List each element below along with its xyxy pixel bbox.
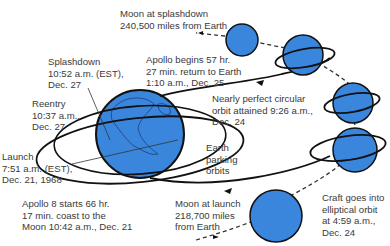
label-moon-splashdown: Moon at splashdown240,500 miles from Ear… — [120, 8, 227, 31]
moon-icon — [309, 128, 388, 172]
label-parking-orbits: Earthparkingorbits — [206, 142, 237, 177]
label-elliptical-orbit: Craft goes intoelliptical orbitat 4:59 a… — [322, 192, 384, 238]
label-coast: Apollo 8 starts 66 hr.17 min. coast to t… — [22, 198, 132, 233]
arrow-icon — [198, 31, 203, 35]
label-launch: Launch7:51 a.m. (EST),Dec. 21, 1968 — [2, 151, 72, 186]
label-return: Apollo begins 57 hr.27 min. return to Ea… — [146, 54, 241, 89]
moon-icon — [226, 24, 258, 56]
label-reentry: Reentry10:37 a.m.,Dec. 27 — [32, 98, 80, 133]
earth-icon — [96, 90, 184, 178]
label-splashdown: Splashdown10:52 a.m. (EST),Dec. 27 — [48, 56, 124, 91]
arrow-icon — [213, 235, 219, 239]
moon-icon — [274, 35, 336, 75]
label-moon-launch: Moon at launch218,700 milesfrom Earth — [175, 198, 241, 233]
arrow-icon — [224, 188, 232, 194]
arrow-icon — [256, 80, 264, 86]
label-circular-orbit: Nearly perfect circularorbit attained 9:… — [212, 93, 313, 128]
moon-icon — [250, 190, 302, 242]
moon-icon — [323, 83, 381, 123]
